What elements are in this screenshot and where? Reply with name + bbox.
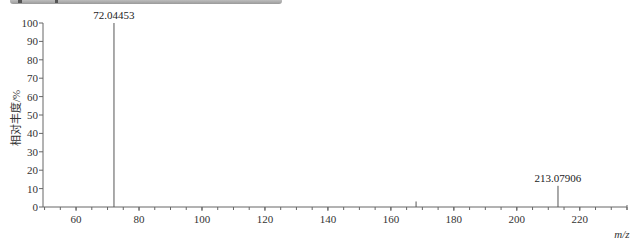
y-tick-label: 100 [22,17,39,29]
y-tick-label: 0 [33,201,39,213]
mass-spectrum-chart: 0102030405060708090100608010012014016018… [0,0,639,246]
peaks [114,23,558,207]
x-axis-title: m/z [614,228,630,240]
y-axis-title: 相对丰度/% [9,90,22,146]
y-tick-label: 60 [27,91,39,103]
y-tick-label: 80 [27,54,39,66]
peak-label: 213.07906 [535,172,582,184]
peak-label: 72.04453 [93,9,135,21]
y-tick-label: 30 [27,146,39,158]
y-tick-label: 10 [27,183,39,195]
y-tick-label: 20 [27,164,39,176]
x-tick-label: 80 [134,213,146,225]
x-tick-label: 60 [71,213,83,225]
x-tick-label: 120 [257,213,274,225]
y-tick-label: 90 [27,35,39,47]
x-tick-label: 160 [383,213,400,225]
x-tick-label: 140 [320,213,337,225]
x-tick-label: 180 [446,213,463,225]
axes: 0102030405060708090100608010012014016018… [22,17,628,225]
x-tick-label: 220 [572,213,589,225]
y-tick-label: 40 [27,127,39,139]
x-tick-label: 200 [509,213,526,225]
y-tick-label: 70 [27,72,39,84]
x-tick-label: 100 [194,213,211,225]
peak-labels: 72.04453213.07906 [93,9,582,184]
y-tick-label: 50 [27,109,39,121]
